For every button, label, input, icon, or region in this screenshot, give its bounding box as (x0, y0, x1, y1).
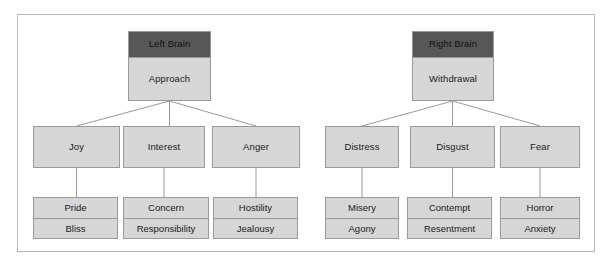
leaf-pride[interactable]: Pride (34, 198, 117, 219)
leaf-horror[interactable]: Horror (501, 198, 579, 219)
leaf-stack-distress: Misery Agony (325, 197, 399, 239)
emotion-node-distress[interactable]: Distress (325, 126, 399, 168)
root-header-right-brain: Right Brain (413, 32, 493, 58)
leaf-resentment[interactable]: Resentment (408, 219, 491, 239)
leaf-bliss[interactable]: Bliss (34, 219, 117, 239)
leaf-concern[interactable]: Concern (124, 198, 208, 219)
connector-right-root-distress (362, 101, 453, 126)
leaf-stack-disgust: Contempt Resentment (407, 197, 492, 239)
emotion-node-joy[interactable]: Joy (33, 126, 120, 168)
diagram-canvas: Left Brain Approach Joy Interest Anger P… (0, 0, 612, 269)
leaf-agony[interactable]: Agony (326, 219, 398, 239)
leaf-contempt[interactable]: Contempt (408, 198, 491, 219)
leaf-stack-joy: Pride Bliss (33, 197, 118, 239)
leaf-anxiety[interactable]: Anxiety (501, 219, 579, 239)
leaf-stack-interest: Concern Responsibility (123, 197, 209, 239)
root-node-left-brain[interactable]: Left Brain Approach (128, 31, 211, 101)
leaf-misery[interactable]: Misery (326, 198, 398, 219)
leaf-jealousy[interactable]: Jealousy (214, 219, 297, 239)
emotion-node-disgust[interactable]: Disgust (410, 126, 495, 168)
connector-left-root-joy (77, 101, 170, 126)
root-body-left-brain: Approach (129, 58, 210, 100)
leaf-hostility[interactable]: Hostility (214, 198, 297, 219)
emotion-node-interest[interactable]: Interest (123, 126, 205, 168)
root-body-right-brain: Withdrawal (413, 58, 493, 100)
root-header-left-brain: Left Brain (129, 32, 210, 58)
leaf-stack-fear: Horror Anxiety (500, 197, 580, 239)
root-node-right-brain[interactable]: Right Brain Withdrawal (412, 31, 494, 101)
leaf-responsibility[interactable]: Responsibility (124, 219, 208, 239)
emotion-node-anger[interactable]: Anger (212, 126, 300, 168)
leaf-stack-anger: Hostility Jealousy (213, 197, 298, 239)
connector-left-root-anger (170, 101, 257, 126)
emotion-node-fear[interactable]: Fear (500, 126, 580, 168)
connector-right-root-fear (453, 101, 541, 126)
